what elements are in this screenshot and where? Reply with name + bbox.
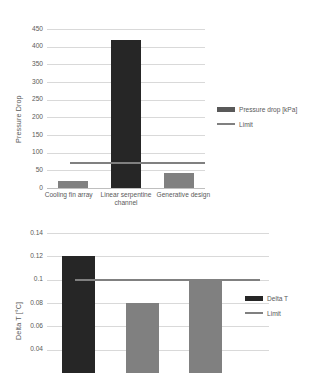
legend-item-1[interactable]: Limit — [245, 309, 288, 317]
bar-2 — [164, 173, 194, 188]
bar-2 — [189, 280, 222, 373]
delta-t-y-axis-title: Delta T [°C] — [14, 302, 23, 340]
legend-bar-swatch-icon — [217, 107, 235, 112]
pressure-drop-plot-area — [47, 29, 205, 188]
y-tick-label: 0.08 — [23, 300, 43, 307]
legend-item-1[interactable]: Limit — [217, 120, 297, 128]
legend-item-0[interactable]: Pressure drop [kPa] — [217, 105, 297, 113]
pressure-drop-y-axis-title: Pressure Drop — [14, 95, 23, 143]
legend-item-0[interactable]: Delta T — [245, 294, 288, 302]
bar-0 — [62, 256, 95, 373]
y-tick-label: 0.1 — [23, 276, 43, 283]
delta-t-plot-area — [47, 233, 237, 373]
axis-line — [47, 188, 205, 189]
gridline — [47, 233, 269, 234]
pressure-drop-legend: Pressure drop [kPa]Limit — [217, 105, 297, 135]
y-tick-label: 0.14 — [23, 230, 43, 237]
legend-line-swatch-icon — [245, 312, 263, 314]
bar-1 — [126, 303, 159, 373]
legend-label: Limit — [267, 310, 281, 317]
delta-t-chart: Delta T [°C] 0.140.120.10.080.060.04 Del… — [0, 210, 312, 353]
limit-line — [75, 279, 260, 281]
x-axis-label-1: Linear serpentine channel — [97, 191, 154, 206]
limit-line — [70, 162, 205, 164]
y-tick-label: 50 — [25, 167, 43, 174]
legend-label: Limit — [239, 121, 253, 128]
y-tick-label: 0.04 — [23, 346, 43, 353]
x-axis-label-2: Generative design — [155, 191, 212, 206]
pressure-drop-x-axis-labels: Cooling fin arrayLinear serpentine chann… — [40, 191, 212, 206]
bar-1 — [111, 40, 141, 188]
y-tick-label: 400 — [25, 43, 43, 50]
gridline — [47, 29, 205, 30]
x-axis-label-0: Cooling fin array — [40, 191, 97, 206]
y-tick-label: 200 — [25, 114, 43, 121]
bar-0 — [58, 181, 88, 188]
y-tick-label: 450 — [25, 26, 43, 33]
delta-t-legend: Delta TLimit — [245, 294, 288, 324]
legend-line-swatch-icon — [217, 123, 235, 125]
y-tick-label: 0.12 — [23, 253, 43, 260]
pressure-drop-chart: Pressure Drop 05010015020025030035040045… — [0, 0, 312, 210]
y-tick-label: 350 — [25, 61, 43, 68]
legend-label: Delta T — [267, 295, 288, 302]
y-tick-label: 250 — [25, 96, 43, 103]
y-tick-label: 300 — [25, 79, 43, 86]
legend-bar-swatch-icon — [245, 296, 263, 301]
y-tick-label: 150 — [25, 132, 43, 139]
y-tick-label: 100 — [25, 149, 43, 156]
legend-label: Pressure drop [kPa] — [239, 106, 297, 113]
y-tick-label: 0.06 — [23, 323, 43, 330]
